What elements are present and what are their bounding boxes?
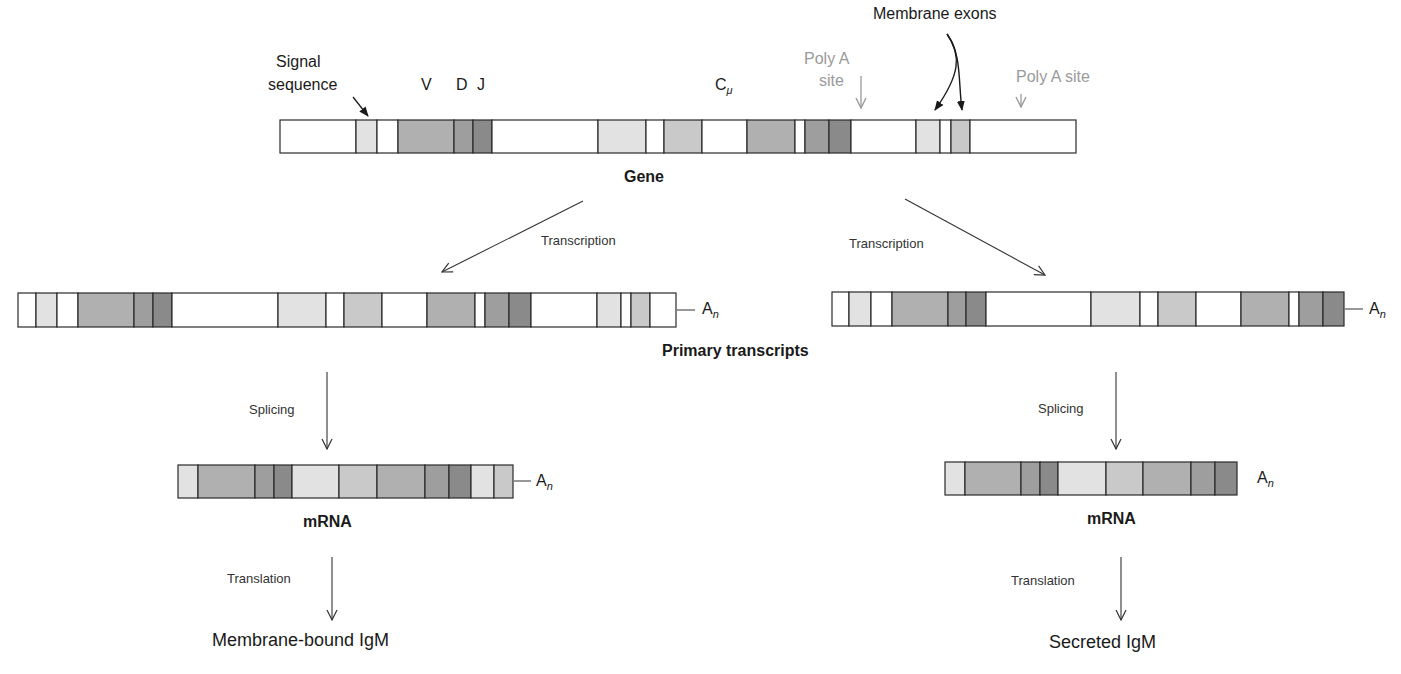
translation-label-left: Translation	[227, 571, 291, 586]
segment-dark	[1323, 292, 1344, 326]
c-label: C	[715, 76, 727, 93]
segment-medlight	[1106, 462, 1143, 495]
membrane-exons-label: Membrane exons	[873, 5, 997, 23]
tail-n: n	[1380, 308, 1386, 320]
segment-dark	[509, 293, 531, 327]
tail-a: A	[1369, 300, 1380, 317]
segment-medlight	[494, 465, 513, 498]
segment-dark	[1040, 462, 1058, 495]
segment-darkmid	[454, 120, 473, 153]
segment-darkmid	[948, 292, 966, 326]
mrna-left-polya-tail: An	[536, 472, 553, 490]
mrna-right-bar	[945, 462, 1237, 495]
pt-right-polya-tail: An	[1369, 300, 1386, 318]
segment-dark	[1215, 462, 1237, 495]
translation-label-right: Translation	[1011, 573, 1075, 588]
segment-white	[1196, 292, 1241, 326]
segment-white	[795, 120, 805, 153]
splicing-label-right: Splicing	[1038, 401, 1084, 416]
segment-medlight	[1158, 292, 1196, 326]
segment-light	[356, 120, 377, 153]
gene-bar	[280, 120, 1076, 153]
membrane-bound-igm-label: Membrane-bound IgM	[212, 630, 389, 651]
segment-light	[292, 465, 339, 498]
segment-light	[36, 293, 57, 327]
segment-mid	[1143, 462, 1191, 495]
signal-sequence-label-line1: Signal	[276, 53, 320, 71]
segment-white	[986, 292, 1091, 326]
gene-label: Gene	[624, 168, 664, 186]
poly-a-site-1-line2: site	[819, 72, 844, 90]
segment-darkmid	[134, 293, 153, 327]
primary-transcript-left-bar	[18, 293, 676, 327]
segment-white	[702, 120, 747, 153]
segment-white	[172, 293, 278, 327]
segment-white	[377, 120, 398, 153]
segment-mid	[747, 120, 795, 153]
segment-dark	[274, 465, 292, 498]
transcription-arrow-right	[905, 199, 1045, 275]
signal-sequence-label-line2: sequence	[268, 76, 337, 94]
segment-white	[280, 120, 356, 153]
segment-light	[1058, 462, 1106, 495]
mu-subscript: μ	[727, 84, 733, 96]
segment-darkmid	[425, 465, 449, 498]
segment-darkmid	[485, 293, 509, 327]
segment-mid	[398, 120, 454, 153]
j-segment-label: J	[477, 76, 485, 94]
segment-light	[1091, 292, 1140, 326]
pt-left-polya-tail: An	[702, 300, 719, 318]
segment-medlight	[631, 293, 650, 327]
signal-sequence-arrow	[353, 97, 368, 116]
segment-white	[18, 293, 36, 327]
segment-dark	[966, 292, 986, 326]
transcription-label-right: Transcription	[849, 236, 924, 251]
segment-darkmid	[1021, 462, 1040, 495]
segment-mid	[198, 465, 255, 498]
segment-white	[382, 293, 427, 327]
segment-light	[945, 462, 965, 495]
c-mu-label: Cμ	[715, 76, 733, 94]
v-segment-label: V	[421, 76, 432, 94]
tail-a: A	[536, 472, 547, 489]
segment-white	[1140, 292, 1158, 326]
mrna-left-bar	[178, 465, 513, 498]
tail-n: n	[1268, 477, 1274, 489]
tail-n: n	[713, 308, 719, 320]
segment-darkmid	[1191, 462, 1215, 495]
segment-light	[178, 465, 198, 498]
primary-transcripts-label: Primary transcripts	[662, 342, 809, 360]
segment-mid	[377, 465, 425, 498]
tail-a: A	[702, 300, 713, 317]
segment-light	[278, 293, 326, 327]
segment-medlight	[344, 293, 382, 327]
segment-white	[492, 120, 598, 153]
segment-white	[851, 120, 916, 153]
segment-white	[970, 120, 1076, 153]
segment-white	[1289, 292, 1299, 326]
d-segment-label: D	[456, 76, 468, 94]
segment-white	[475, 293, 485, 327]
segment-darkmid	[805, 120, 829, 153]
segment-mid	[892, 292, 948, 326]
segment-medlight	[951, 120, 970, 153]
primary-transcript-right-bar	[832, 292, 1344, 326]
segment-white	[57, 293, 78, 327]
diagram-canvas	[0, 0, 1401, 674]
segment-white	[832, 292, 849, 326]
splicing-label-left: Splicing	[249, 402, 295, 417]
segment-white	[326, 293, 344, 327]
segment-mid	[427, 293, 475, 327]
segment-light	[916, 120, 940, 153]
segment-medlight	[664, 120, 702, 153]
transcription-label-left: Transcription	[541, 233, 616, 248]
segment-mid	[1241, 292, 1289, 326]
segment-dark	[473, 120, 492, 153]
segment-darkmid	[255, 465, 274, 498]
segment-white	[871, 292, 892, 326]
segment-light	[471, 465, 494, 498]
segment-light	[598, 120, 646, 153]
segment-darkmid	[1299, 292, 1323, 326]
tail-a: A	[1257, 469, 1268, 486]
segment-white	[621, 293, 631, 327]
